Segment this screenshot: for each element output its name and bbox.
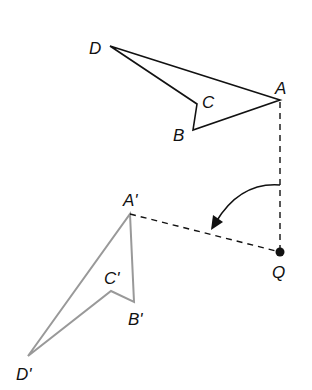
label-a: A bbox=[274, 79, 286, 98]
rotation-arc-arrow-icon bbox=[216, 185, 280, 222]
label-c: C bbox=[202, 93, 215, 112]
arrowhead-icon bbox=[211, 215, 223, 230]
dashed-segment-aprime-q bbox=[130, 214, 280, 252]
label-a-prime: A' bbox=[122, 191, 138, 210]
rotation-diagram: D A C B A' C' B' D' Q bbox=[0, 0, 312, 390]
center-point-q bbox=[276, 248, 285, 257]
label-d-prime: D' bbox=[16, 365, 32, 384]
quadrilateral-abcd bbox=[110, 46, 280, 130]
label-b-prime: B' bbox=[128, 310, 143, 329]
label-q: Q bbox=[272, 263, 285, 282]
label-b: B bbox=[173, 126, 184, 145]
label-d: D bbox=[89, 39, 101, 58]
label-c-prime: C' bbox=[104, 269, 120, 288]
